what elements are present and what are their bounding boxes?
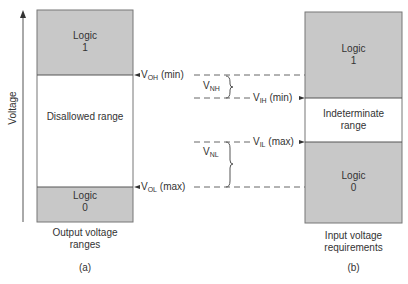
indeterminate-line1: Indeterminate	[305, 108, 402, 120]
vnl-sub: NL	[210, 151, 219, 158]
left-logic0-label: Logic 0	[37, 190, 133, 214]
voh-label: VOH (min)	[141, 69, 184, 84]
vil-label: VIL (max)	[253, 136, 294, 151]
voh-suffix: (min)	[161, 69, 184, 80]
right-caption-line1: Input voltage	[305, 230, 402, 242]
right-logic1-label: Logic 1	[305, 43, 402, 67]
vnh-brace	[226, 76, 233, 98]
vol-label: VOL (max)	[141, 181, 185, 196]
left-logic1-label: Logic 1	[37, 30, 133, 54]
voltage-axis-label: Voltage	[7, 83, 19, 133]
left-caption-line2: ranges	[37, 239, 133, 251]
right-logic0-text: Logic	[305, 170, 402, 182]
axis-arrow-icon	[20, 10, 26, 18]
left-logic0-text: Logic	[37, 190, 133, 202]
vih-label: VIH (min)	[253, 92, 292, 107]
right-logic1-value: 1	[305, 55, 402, 67]
indeterminate-line2: range	[305, 120, 402, 132]
vih-base: V	[253, 92, 260, 103]
vol-base: V	[141, 181, 148, 192]
voh-sub: OH	[148, 74, 159, 81]
right-caption-line2: requirements	[305, 242, 402, 254]
right-caption: Input voltage requirements	[305, 230, 402, 254]
vnl-brace	[226, 142, 233, 187]
vih-suffix: (min)	[269, 92, 292, 103]
vil-suffix: (max)	[268, 136, 294, 147]
vnh-sub: NH	[210, 85, 220, 92]
vol-suffix: (max)	[160, 181, 186, 192]
voh-arrow-icon	[134, 73, 140, 77]
left-logic1-text: Logic	[37, 30, 133, 42]
left-caption: Output voltage ranges	[37, 227, 133, 251]
vil-base: V	[253, 136, 260, 147]
left-logic0-value: 0	[37, 202, 133, 214]
vil-arrow-icon	[299, 140, 305, 144]
indeterminate-range-label: Indeterminate range	[305, 108, 402, 132]
right-logic1-text: Logic	[305, 43, 402, 55]
vol-arrow-icon	[134, 185, 140, 189]
right-logic0-label: Logic 0	[305, 170, 402, 194]
vih-sub: IH	[260, 97, 267, 104]
left-panel-tag: (a)	[37, 262, 133, 274]
vnh-base: V	[203, 80, 210, 91]
vih-arrow-icon	[299, 96, 305, 100]
vil-sub: IL	[260, 141, 266, 148]
right-logic0-value: 0	[305, 182, 402, 194]
vol-sub: OL	[148, 186, 157, 193]
vnl-base: V	[203, 146, 210, 157]
disallowed-range-label: Disallowed range	[37, 111, 133, 123]
vnl-label: VNL	[203, 146, 219, 161]
voh-base: V	[141, 69, 148, 80]
vnh-label: VNH	[203, 80, 220, 95]
right-panel-tag: (b)	[305, 262, 402, 274]
left-caption-line1: Output voltage	[37, 227, 133, 239]
left-logic1-value: 1	[37, 42, 133, 54]
